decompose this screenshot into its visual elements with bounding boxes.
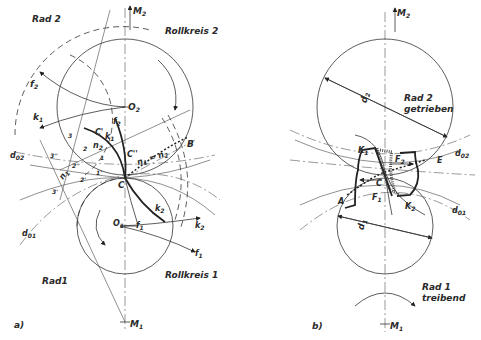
label-d02-b: d02: [455, 149, 469, 159]
label-d2: d2: [359, 91, 372, 103]
label-c-b: C: [376, 179, 382, 188]
label-rollkreis2: Rollkreis 2: [165, 26, 218, 36]
label-k2-inner: k2: [155, 204, 165, 214]
f2-arrow: [40, 72, 125, 107]
caption-b: b): [312, 321, 323, 331]
label-c-prime: C': [95, 128, 103, 137]
label-k2-b: K2: [405, 202, 415, 212]
label-pt-3p: 3': [52, 188, 58, 195]
construction-line-2: [40, 140, 125, 322]
label-o1: O1: [113, 219, 124, 229]
label-treibend: treibend: [422, 293, 466, 303]
label-getrieben: getrieben: [404, 104, 453, 114]
label-k1-inner: k1: [105, 132, 115, 142]
label-pt-1p: 1': [96, 169, 102, 176]
label-f1-inner: f1: [136, 221, 144, 231]
label-o2: O2: [128, 102, 140, 113]
label-rollkreis1: Rollkreis 1: [165, 270, 218, 280]
caption-a: a): [14, 320, 24, 330]
curve-b-1: [295, 140, 460, 163]
label-f1-outer: f1: [195, 249, 203, 259]
label-n1-eq-n2: n1 = n2: [136, 148, 170, 167]
gear-meshing-diagram: Rad 2 Rollkreis 2 M2 O2 f2 k1 f2 k1 C' C…: [0, 0, 481, 340]
rotation-arrow-rad1: [96, 210, 105, 245]
label-rad2-a: Rad 2: [32, 14, 61, 24]
label-m1-a: M1: [130, 319, 143, 330]
label-n2: n2: [93, 141, 103, 151]
label-f1-b: F1: [372, 193, 382, 203]
label-pt-1: 1: [100, 154, 104, 161]
label-m1-b: M1: [390, 321, 403, 332]
d02-arc-a: [15, 152, 215, 164]
label-k1-b: K1: [358, 146, 368, 156]
label-k2-outer: k2: [195, 221, 205, 231]
label-pt-2pp: 2'': [72, 162, 80, 169]
contact-flank: [375, 148, 392, 196]
rad2-dashed-arc-inner: [70, 55, 113, 175]
label-rad1-a: Rad1: [42, 276, 68, 286]
label-d01-a: d01: [22, 229, 36, 239]
label-e: E: [437, 156, 443, 165]
flank-k2: [125, 178, 165, 222]
label-k1-outer: k1: [33, 112, 43, 123]
label-pt-3pp: 3'': [50, 152, 58, 159]
label-rad1-b: Rad 1: [422, 282, 451, 292]
label-a: A: [337, 197, 344, 206]
label-f2-inner: f2: [113, 117, 121, 127]
arc-through-b-2: [162, 118, 181, 220]
label-m2-b: M2: [397, 8, 410, 19]
label-m2-a: M2: [133, 6, 146, 17]
rotation-arrow-rad2: [158, 60, 176, 110]
flank-f1: [125, 178, 138, 225]
label-rad2-b: Rad 2: [404, 93, 433, 103]
label-f2-outer: f2: [30, 79, 38, 90]
label-c-a: C: [118, 180, 125, 190]
label-d01-b: d01: [452, 206, 466, 216]
label-b: B: [187, 139, 194, 149]
label-pt-2p: 2': [80, 176, 86, 183]
label-pt-3: 3: [68, 132, 72, 139]
label-f2-b: F2: [395, 155, 405, 165]
label-pt-2: 2: [83, 145, 87, 152]
f1-arrow: [120, 226, 195, 252]
